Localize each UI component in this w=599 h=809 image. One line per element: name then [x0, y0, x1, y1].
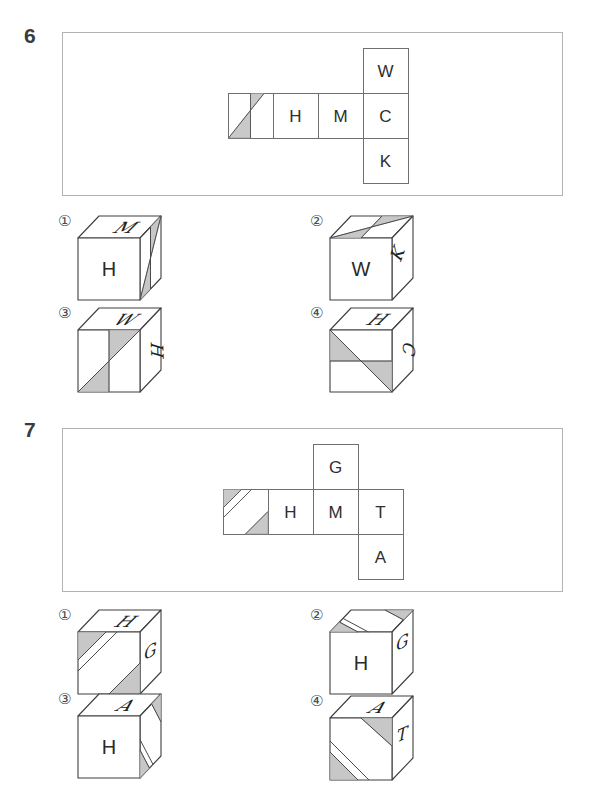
net7-letter-a: H [284, 503, 296, 522]
net7-letter-c: T [375, 503, 385, 522]
question-6-net-figure: H M C W K [228, 48, 410, 185]
net6-letter-b: M [333, 107, 347, 126]
question-6-option-2: ② W K [310, 208, 436, 306]
net6-letter-a: H [289, 107, 301, 126]
question-7-option-4: ④ A T [310, 688, 436, 786]
question-6-option-3: ③ W H [58, 300, 184, 398]
question-6-number: 6 [24, 24, 36, 48]
option-2-circle-label: ② [310, 214, 323, 229]
question-7-number: 7 [24, 418, 36, 442]
question-6-option-4: ④ H C [310, 300, 436, 398]
question-7-option-2: ② H G [310, 602, 436, 700]
option-1-circle-label: ① [58, 608, 71, 623]
option-3-circle-label: ③ [58, 306, 71, 321]
question-7-net-figure: H M T G A [223, 444, 405, 581]
net7-letter-b: M [328, 503, 342, 522]
net6-letter-top: W [377, 62, 393, 81]
question-6-option-1: ① M H [58, 208, 184, 306]
question-7-option-2-cube: H G [324, 602, 436, 700]
question-7-net-box: H M T G A [62, 428, 563, 592]
cube-front-letter: H [102, 258, 116, 280]
option-3-circle-label: ③ [58, 692, 71, 707]
option-4-circle-label: ④ [310, 306, 323, 321]
net7-letter-bottom: A [375, 548, 387, 567]
net6-letter-c: C [379, 107, 391, 126]
cube-front-letter: W [352, 258, 371, 280]
question-7-option-4-cube: A T [324, 688, 436, 786]
option-4-circle-label: ④ [310, 694, 323, 709]
question-7-option-3-cube: A H [72, 686, 184, 784]
question-6-option-3-cube: W H [72, 300, 184, 398]
question-6-net-box: H M C W K [62, 32, 563, 196]
question-6-option-1-cube: M H [72, 208, 184, 306]
question-7-option-3: ③ A H [58, 686, 184, 784]
question-6-option-4-cube: H C [324, 300, 436, 398]
option-1-circle-label: ① [58, 214, 71, 229]
cube-front-letter: H [102, 736, 116, 758]
net6-letter-bottom: K [380, 152, 392, 171]
net7-letter-top: G [329, 458, 342, 477]
cube-front-letter: H [354, 652, 368, 674]
question-6-option-2-cube: W K [324, 208, 436, 306]
option-2-circle-label: ② [310, 608, 323, 623]
worksheet-page: 6 H M C W K ① [0, 0, 599, 809]
